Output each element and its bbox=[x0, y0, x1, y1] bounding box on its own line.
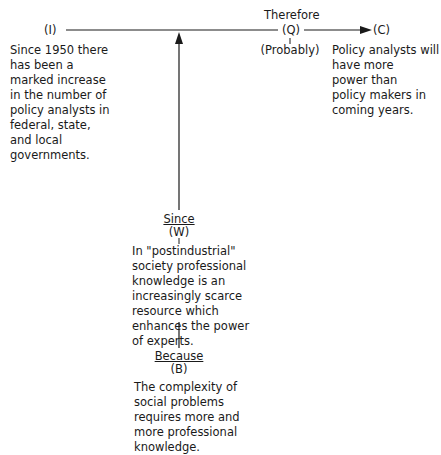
information-text: Since 1950 there has been a marked incre… bbox=[10, 43, 130, 163]
therefore-connector: Therefore bbox=[264, 8, 316, 22]
backing-text: The complexity of social problems requir… bbox=[134, 380, 284, 455]
qualifier-symbol: (Q) bbox=[278, 23, 304, 37]
because-connector: Because bbox=[154, 349, 204, 363]
claim-symbol: (C) bbox=[373, 23, 390, 37]
warrant-symbol: (W) bbox=[164, 225, 194, 239]
qualifier-text: (Probably) bbox=[257, 43, 323, 57]
claim-text: Policy analysts will have more power tha… bbox=[332, 43, 440, 118]
warrant-text: In "postindustrial" society professional… bbox=[132, 244, 282, 349]
backing-symbol: (B) bbox=[164, 362, 194, 376]
since-connector: Since bbox=[159, 212, 199, 226]
information-symbol: (I) bbox=[44, 23, 56, 37]
